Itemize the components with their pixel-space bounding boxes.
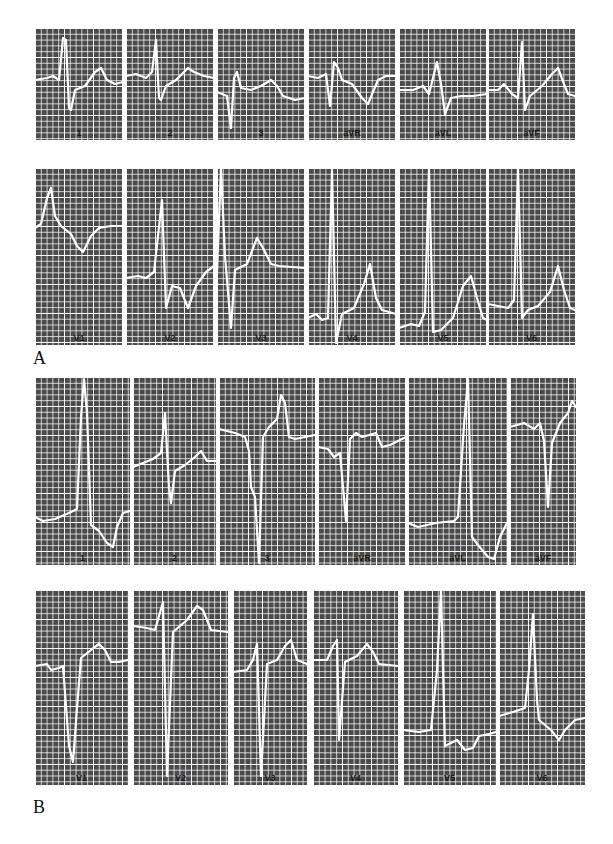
ecg-trace xyxy=(308,28,396,140)
ecg-strip-a-lead-3: 3 xyxy=(217,28,305,140)
ecg-strip-a-lead-v6: V6 xyxy=(488,168,575,345)
ecg-strip-b-lead-v3: V3 xyxy=(233,590,307,785)
panel-label-b: B xyxy=(33,797,45,818)
ecg-trace xyxy=(499,590,585,785)
ecg-trace xyxy=(510,377,576,565)
ecg-trace xyxy=(35,590,128,785)
ecg-trace xyxy=(126,28,214,140)
ecg-trace xyxy=(318,377,406,565)
ecg-trace xyxy=(35,28,123,140)
lead-label: V1 xyxy=(35,333,123,343)
lead-label: aVF xyxy=(488,128,575,138)
ecg-strip-b-lead-3: 3 xyxy=(219,377,315,565)
lead-label: 3 xyxy=(217,128,305,138)
lead-label: V5 xyxy=(403,773,496,783)
ecg-strip-a-lead-v4: V4 xyxy=(308,168,396,345)
ecg-strip-a-lead-v5: V5 xyxy=(399,168,487,345)
ecg-trace xyxy=(399,168,487,345)
ecg-trace xyxy=(35,168,123,345)
ecg-trace xyxy=(488,168,575,345)
lead-label: V5 xyxy=(399,333,487,343)
ecg-trace xyxy=(403,590,496,785)
ecg-trace xyxy=(408,377,507,565)
lead-label: V6 xyxy=(488,333,575,343)
lead-label: V1 xyxy=(35,773,128,783)
ecg-strip-b-lead-v6: V6 xyxy=(499,590,585,785)
lead-label: V2 xyxy=(133,773,228,783)
ecg-trace xyxy=(126,168,214,345)
lead-label: V3 xyxy=(233,773,307,783)
ecg-trace xyxy=(488,28,575,140)
ecg-strip-b-lead-1: 1 xyxy=(35,377,130,565)
ecg-strip-b-lead-avl: aVL xyxy=(408,377,507,565)
ecg-strip-a-lead-avl: aVL xyxy=(399,28,487,140)
ecg-trace xyxy=(217,28,305,140)
panel-label-a: A xyxy=(33,348,46,369)
lead-label: V2 xyxy=(126,333,214,343)
ecg-trace xyxy=(35,377,130,565)
lead-label: V6 xyxy=(499,773,585,783)
ecg-trace xyxy=(133,590,228,785)
lead-label: aVL xyxy=(399,128,487,138)
lead-label: V3 xyxy=(217,333,305,343)
ecg-trace xyxy=(219,377,315,565)
ecg-trace xyxy=(313,590,398,785)
ecg-strip-a-lead-v2: V2 xyxy=(126,168,214,345)
ecg-trace xyxy=(399,28,487,140)
ecg-trace xyxy=(217,168,305,345)
lead-label: aVR xyxy=(308,128,396,138)
ecg-strip-a-lead-v3: V3 xyxy=(217,168,305,345)
lead-label: V4 xyxy=(308,333,396,343)
ecg-trace xyxy=(233,590,307,785)
ecg-strip-a-lead-1: 1 xyxy=(35,28,123,140)
ecg-trace xyxy=(133,377,216,565)
lead-label: 2 xyxy=(126,128,214,138)
ecg-strip-b-lead-v5: V5 xyxy=(403,590,496,785)
ecg-strip-b-lead-v2: V2 xyxy=(133,590,228,785)
ecg-strip-a-lead-2: 2 xyxy=(126,28,214,140)
lead-label: 1 xyxy=(35,128,123,138)
lead-label: 3 xyxy=(219,553,315,563)
ecg-strip-a-lead-v1: V1 xyxy=(35,168,123,345)
lead-label: aVR xyxy=(318,553,406,563)
ecg-strip-b-lead-v1: V1 xyxy=(35,590,128,785)
lead-label: aVF xyxy=(510,553,576,563)
lead-label: aVL xyxy=(408,553,507,563)
lead-label: 2 xyxy=(133,553,216,563)
ecg-trace xyxy=(308,168,396,345)
lead-label: V4 xyxy=(313,773,398,783)
ecg-strip-b-lead-2: 2 xyxy=(133,377,216,565)
ecg-strip-b-lead-v4: V4 xyxy=(313,590,398,785)
ecg-strip-a-lead-avf: aVF xyxy=(488,28,575,140)
ecg-strip-a-lead-avr: aVR xyxy=(308,28,396,140)
lead-label: 1 xyxy=(35,553,130,563)
ecg-strip-b-lead-avf: aVF xyxy=(510,377,576,565)
ecg-strip-b-lead-avr: aVR xyxy=(318,377,406,565)
